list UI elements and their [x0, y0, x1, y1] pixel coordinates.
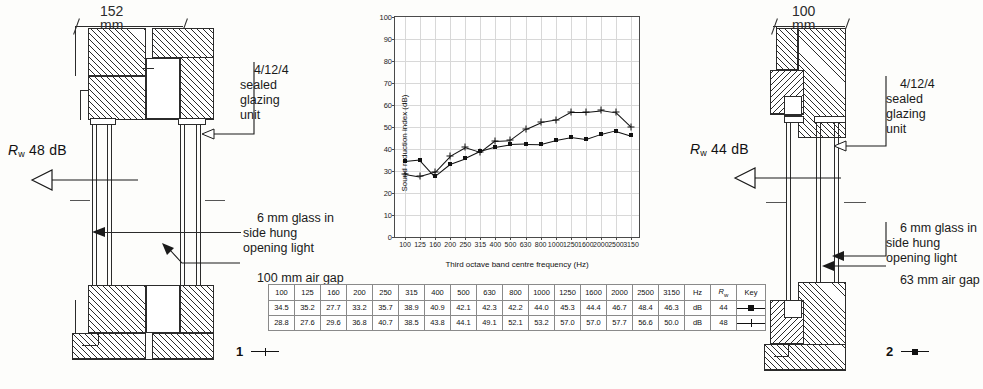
chart-y-tickmark [392, 39, 395, 40]
chart-x-tick: 315 [474, 241, 486, 248]
table-header-freq: 500 [451, 285, 477, 301]
table-header-freq: 160 [321, 285, 347, 301]
table-cell-value: 44.0 [529, 300, 555, 315]
chart-x-tick: 250 [459, 241, 471, 248]
glazing-unit-left [92, 120, 114, 305]
chart-gridline-h [395, 83, 639, 84]
chart-y-tick: 70 [384, 79, 392, 88]
frame-rebate-bottom [784, 300, 802, 318]
chart-data-point [567, 108, 574, 115]
chart-y-tick: 100 [379, 13, 392, 22]
chart-x-tick: 1600 [578, 241, 594, 248]
chart-y-tick: 80 [384, 57, 392, 66]
frame-rebate-top [784, 96, 802, 116]
table-cell-value: 42.2 [503, 300, 529, 315]
chart-gridline-v [480, 17, 481, 237]
right-callout-glazing-leader [830, 76, 892, 152]
chart-data-point [522, 125, 529, 132]
chart-x-tickmark [480, 237, 481, 240]
chart-gridline-h [395, 127, 639, 128]
frame-block-top-outer [776, 28, 798, 70]
table-header-freq: 1000 [529, 285, 555, 301]
legend-right: 2 [886, 344, 929, 359]
chart-data-point [417, 173, 424, 180]
chart-y-tick: 20 [384, 189, 392, 198]
dimension-line [773, 26, 845, 27]
chart-gridline-v [510, 17, 511, 237]
chart-x-tick: 1250 [563, 241, 579, 248]
table-cell-value: 35.7 [373, 300, 399, 315]
table-header-freq: 100 [269, 285, 295, 301]
chart-x-tick: 100 [399, 241, 411, 248]
chart-x-tickmark [526, 237, 527, 240]
chart-data-point [612, 109, 619, 116]
chart-x-tickmark [601, 237, 602, 240]
table-cell-value: 53.2 [529, 315, 555, 330]
chart-y-tickmark [392, 105, 395, 106]
chart-y-tickmark [392, 127, 395, 128]
frame-block-bottom-right [180, 285, 214, 333]
left-callout-gap-text: 100 mm air gap [257, 271, 344, 285]
right-glazing-outer [786, 118, 802, 308]
chart-y-tickmark [392, 171, 395, 172]
chart-y-tickmark [392, 215, 395, 216]
table-cell-value: 28.8 [269, 315, 295, 330]
chart-data-point [477, 149, 484, 156]
chart-data-point [597, 107, 604, 114]
chart-gridline-v [495, 17, 496, 237]
chart-x-tickmark [465, 237, 466, 240]
sill-block-left [72, 333, 146, 359]
chart-gridline-v [420, 17, 421, 237]
chart-gridline-v [556, 17, 557, 237]
table-header-freq: 800 [503, 285, 529, 301]
table-cell-value: 46.7 [607, 300, 633, 315]
chart-y-tickmark [392, 83, 395, 84]
frame-block-top-left [88, 28, 146, 76]
chart-data-point [582, 108, 589, 115]
left-rw-rating: Rw 48 dB [8, 142, 67, 159]
right-glazing-head [784, 116, 804, 123]
table-cell-value: 42.3 [477, 300, 503, 315]
table-cell-value: 29.6 [321, 315, 347, 330]
chart-x-tickmark [405, 237, 406, 240]
chart-gridline-h [395, 237, 639, 238]
chart-x-tickmark [541, 237, 542, 240]
chart-y-tickmark [392, 61, 395, 62]
chart-gridline-h [395, 215, 639, 216]
chart-data-point [554, 138, 558, 142]
table-cell-value: 56.6 [633, 315, 659, 330]
chart-gridline-v [450, 17, 451, 237]
sound-reduction-chart: 0102030405060708090100100125160200250315… [358, 8, 658, 278]
chart-gridline-h [395, 39, 639, 40]
table-cell-value: 34.5 [269, 300, 295, 315]
chart-x-tickmark [616, 237, 617, 240]
table-header-freq: 630 [477, 285, 503, 301]
chart-gridline-v [571, 17, 572, 237]
table-header-rw: Rw [711, 285, 737, 301]
chart-y-tickmark [392, 237, 395, 238]
table-cell-value: 57.0 [555, 315, 581, 330]
chart-x-tick: 3150 [623, 241, 639, 248]
table-header-freq: 250 [373, 285, 399, 301]
table-header-unit: Hz [685, 285, 711, 301]
table-header-freq: 1600 [581, 285, 607, 301]
chart-gridline-h [395, 193, 639, 194]
glazing-head-left [90, 118, 116, 125]
right-callout-glazing: 4/12/4 sealed glazing unit [886, 62, 983, 152]
table-cell-value: 40.7 [373, 315, 399, 330]
right-rw-label: Rw 44 dB [690, 141, 749, 157]
table-cell-value: 49.1 [477, 315, 503, 330]
legend-left: 1 [236, 344, 279, 359]
table-cell-value: 57.7 [607, 315, 633, 330]
chart-x-tickmark [586, 237, 587, 240]
table-cell-value: 27.6 [295, 315, 321, 330]
table-header-freq: 125 [295, 285, 321, 301]
right-sound-arrow [733, 163, 843, 193]
left-callout-glazing-leader [198, 62, 266, 140]
table-header-row: 1001251602002503154005006308001000125016… [269, 285, 766, 301]
table-cell-value: 35.2 [295, 300, 321, 315]
chart-y-tick: 10 [384, 211, 392, 220]
chart-x-tickmark [420, 237, 421, 240]
square-marker-icon [901, 348, 929, 356]
legend-right-number: 2 [886, 344, 893, 359]
